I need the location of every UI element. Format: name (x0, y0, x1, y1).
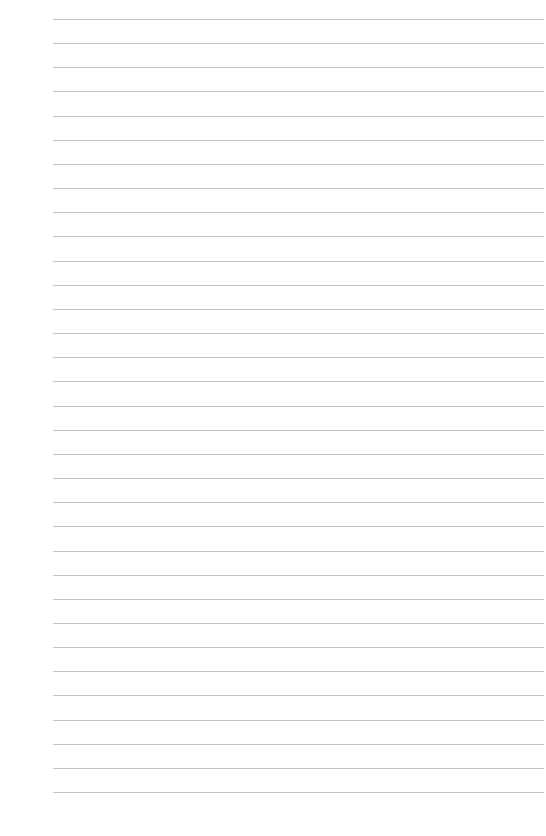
ruled-line (53, 502, 544, 503)
ruled-line (53, 526, 544, 527)
ruled-line (53, 333, 544, 334)
ruled-line (53, 381, 544, 382)
ruled-line (53, 720, 544, 721)
ruled-line (53, 212, 544, 213)
ruled-line (53, 309, 544, 310)
ruled-line (53, 140, 544, 141)
ruled-line (53, 575, 544, 576)
ruled-line (53, 357, 544, 358)
ruled-line (53, 768, 544, 769)
ruled-line (53, 454, 544, 455)
ruled-line (53, 551, 544, 552)
ruled-line (53, 164, 544, 165)
ruled-line (53, 623, 544, 624)
ruled-line (53, 744, 544, 745)
ruled-line (53, 67, 544, 68)
lined-paper-page (0, 0, 546, 836)
ruled-line (53, 188, 544, 189)
ruled-line (53, 430, 544, 431)
ruled-line (53, 647, 544, 648)
ruled-line (53, 43, 544, 44)
ruled-line (53, 792, 544, 793)
ruled-line (53, 406, 544, 407)
ruled-line (53, 478, 544, 479)
ruled-line (53, 261, 544, 262)
ruled-line (53, 116, 544, 117)
ruled-line (53, 236, 544, 237)
ruled-line (53, 285, 544, 286)
ruled-line (53, 671, 544, 672)
ruled-line (53, 599, 544, 600)
ruled-line (53, 695, 544, 696)
ruled-line (53, 91, 544, 92)
ruled-line (53, 19, 544, 20)
